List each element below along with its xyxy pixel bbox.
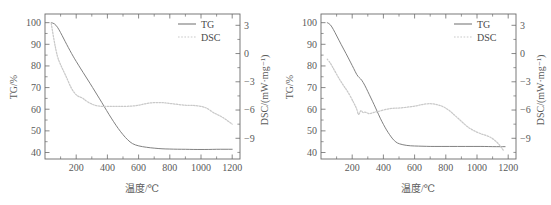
x-tick-label: 200 <box>345 162 360 173</box>
x-tick-label: 1000 <box>467 162 487 173</box>
y-right-tick-label: −9 <box>520 133 531 144</box>
y-right-tick-label: −6 <box>244 104 255 115</box>
chart-panel-b: 20040060080010001200405060708090100−9−6−… <box>276 0 551 205</box>
chart-svg-a: 20040060080010001200405060708090100−9−6−… <box>0 0 275 205</box>
y-left-tick-label: 80 <box>31 60 41 71</box>
x-tick-label: 1200 <box>498 162 518 173</box>
x-tick-label: 1200 <box>222 162 242 173</box>
y-right-tick-label: −6 <box>520 104 531 115</box>
x-tick-label: 400 <box>376 162 391 173</box>
y-right-tick-label: 3 <box>244 20 249 31</box>
y-left-tick-label: 60 <box>307 104 317 115</box>
y-left-tick-label: 100 <box>302 17 317 28</box>
curve-dsc <box>327 59 503 150</box>
y-right-tick-label: −3 <box>520 76 531 87</box>
legend-label-dsc-b: DSC <box>477 32 497 43</box>
x-axis-title-b: 温度/℃ <box>401 182 435 194</box>
y-right-tick-label: 0 <box>520 48 525 59</box>
legend-label-dsc-a: DSC <box>201 32 221 43</box>
y-right-tick-label: −3 <box>244 76 255 87</box>
y-left-tick-label: 80 <box>307 60 317 71</box>
legend-label-tg-a: TG <box>201 19 214 30</box>
legend-label-tg-b: TG <box>477 19 490 30</box>
x-tick-label: 400 <box>100 162 115 173</box>
y-left-tick-label: 40 <box>31 147 41 158</box>
x-axis-title-a: 温度/℃ <box>125 182 159 194</box>
y-right-axis-title-b: DSC/(mW·mg⁻¹) <box>535 55 547 126</box>
x-tick-label: 200 <box>69 162 84 173</box>
y-left-tick-label: 50 <box>307 125 317 136</box>
figure-container: 20040060080010001200405060708090100−9−6−… <box>0 0 551 205</box>
y-left-tick-label: 90 <box>31 39 41 50</box>
y-right-tick-label: −9 <box>244 133 255 144</box>
y-right-axis-title-a: DSC/(mW·mg⁻¹) <box>259 55 271 126</box>
legend-b: TG DSC <box>454 19 497 43</box>
chart-svg-b: 20040060080010001200405060708090100−9−6−… <box>276 0 551 205</box>
y-left-axis-title-a: TG/% <box>8 75 19 99</box>
y-left-tick-label: 70 <box>31 82 41 93</box>
y-right-tick-label: 3 <box>520 20 525 31</box>
y-left-tick-label: 40 <box>307 147 317 158</box>
x-tick-label: 600 <box>131 162 146 173</box>
y-left-tick-label: 90 <box>307 39 317 50</box>
y-left-axis-title-b: TG/% <box>284 75 295 99</box>
x-tick-label: 600 <box>407 162 422 173</box>
x-tick-label: 800 <box>438 162 453 173</box>
y-left-tick-label: 70 <box>307 82 317 93</box>
y-left-tick-label: 60 <box>31 104 41 115</box>
legend-a: TG DSC <box>178 19 221 43</box>
x-tick-label: 800 <box>162 162 177 173</box>
chart-panel-a: 20040060080010001200405060708090100−9−6−… <box>0 0 275 205</box>
x-tick-label: 1000 <box>191 162 211 173</box>
y-left-tick-label: 100 <box>26 17 41 28</box>
y-left-tick-label: 50 <box>31 125 41 136</box>
y-right-tick-label: 0 <box>244 48 249 59</box>
